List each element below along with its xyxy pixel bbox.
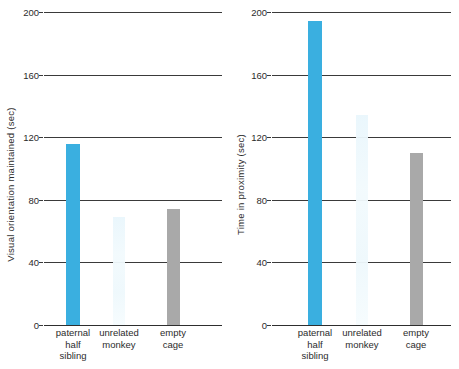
plot-area-left: 0 40 80 120 160 200	[44, 0, 222, 369]
tickdash-80-right	[267, 200, 271, 201]
y-tick-0-left: 0	[34, 321, 39, 331]
y-tick-0-right: 0	[262, 321, 267, 331]
y-axis-title-left-text: Visual orientation maintained (sec)	[5, 107, 16, 261]
tickdash-40-right	[267, 262, 271, 263]
y-tick-120-left: 120	[23, 133, 39, 143]
gridline-0-left: 0	[44, 325, 222, 326]
gridline-120-left: 120	[44, 137, 222, 138]
gridline-160-right: 160	[272, 75, 451, 76]
tickdash-160-left	[39, 75, 43, 76]
x-label-empty-cage-left: empty cage	[141, 327, 205, 350]
y-tick-200-right: 200	[251, 8, 267, 18]
chart-panel-time-in-proximity: Time in proximity (sec) 0 40 80 120 160	[230, 0, 459, 369]
tickdash-120-right	[267, 137, 271, 138]
gridline-160-left: 160	[44, 75, 222, 76]
tickdash-80-left	[39, 200, 43, 201]
gridline-200-left: 200	[44, 12, 222, 13]
y-axis-title-right: Time in proximity (sec)	[232, 0, 248, 369]
x-axis-labels-left: paternal half sibling unrelated monkey e…	[44, 327, 222, 369]
y-axis-title-right-text: Time in proximity (sec)	[235, 134, 246, 235]
bar-empty-cage-left	[167, 209, 180, 325]
bar-unrelated-monkey-left	[113, 217, 125, 325]
y-tick-80-right: 80	[256, 196, 267, 206]
bar-paternal-half-sibling-left	[66, 144, 80, 326]
tickdash-0-left	[39, 325, 43, 326]
y-tick-200-left: 200	[23, 8, 39, 18]
x-axis-labels-right: paternal half sibling unrelated monkey e…	[272, 327, 451, 369]
y-tick-160-right: 160	[251, 71, 267, 81]
tickdash-120-left	[39, 137, 43, 138]
bar-unrelated-monkey-right	[356, 115, 368, 325]
bar-empty-cage-right	[410, 153, 423, 325]
y-tick-120-right: 120	[251, 133, 267, 143]
y-tick-160-left: 160	[23, 71, 39, 81]
x-label-empty-cage-right: empty cage	[384, 327, 448, 350]
plot-area-right: 0 40 80 120 160 200	[272, 0, 451, 369]
chart-panel-visual-orientation: Visual orientation maintained (sec) 0 40…	[0, 0, 230, 369]
tickdash-40-left	[39, 262, 43, 263]
gridline-0-right: 0	[272, 325, 451, 326]
gridline-200-right: 200	[272, 12, 451, 13]
tickdash-200-left	[39, 12, 43, 13]
y-tick-40-left: 40	[28, 259, 39, 269]
tickdash-0-right	[267, 325, 271, 326]
figure-container: Visual orientation maintained (sec) 0 40…	[0, 0, 459, 369]
y-tick-40-right: 40	[256, 259, 267, 269]
y-axis-title-left: Visual orientation maintained (sec)	[2, 0, 18, 369]
tickdash-200-right	[267, 12, 271, 13]
y-tick-80-left: 80	[28, 196, 39, 206]
tickdash-160-right	[267, 75, 271, 76]
bar-paternal-half-sibling-right	[308, 21, 322, 325]
